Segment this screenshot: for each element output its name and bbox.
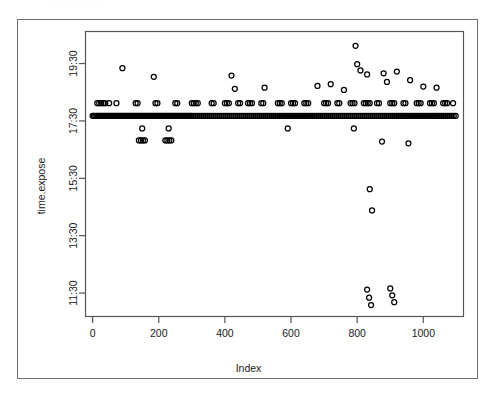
data-point [421, 84, 426, 89]
data-point [394, 69, 399, 74]
data-point [358, 68, 363, 73]
data-point [379, 139, 384, 144]
data-point [140, 126, 145, 131]
data-point [285, 126, 290, 131]
data-point [151, 74, 156, 79]
data-point [365, 287, 370, 292]
data-point [365, 72, 370, 77]
data-point [232, 86, 237, 91]
plot-box [86, 32, 464, 317]
plot-border [86, 32, 464, 317]
x-tick-label: 800 [348, 327, 366, 339]
y-axis-title: time.expose [35, 141, 47, 231]
data-point [392, 300, 397, 305]
data-point [369, 303, 374, 308]
data-point [328, 82, 333, 87]
data-points [90, 43, 458, 307]
data-point [353, 43, 358, 48]
data-point [229, 73, 234, 78]
scatter-plot: 11:3013:3015:3017:3019:30 02004006008001… [0, 0, 497, 399]
data-point [341, 87, 346, 92]
chart-canvas: 11:3013:3015:3017:3019:30 02004006008001… [0, 0, 497, 399]
data-point [434, 85, 439, 90]
x-tick-label: 600 [282, 327, 300, 339]
data-point [388, 286, 393, 291]
data-point [166, 126, 171, 131]
x-tick-label: 0 [90, 327, 96, 339]
x-tick-label: 1000 [412, 327, 436, 339]
data-point [451, 101, 456, 106]
data-point [370, 208, 375, 213]
y-tick-label: 11:30 [67, 280, 79, 306]
data-point [384, 79, 389, 84]
data-point [406, 141, 411, 146]
y-axis: 11:3013:3015:3017:3019:30 [67, 50, 86, 306]
x-axis-title: Index [0, 362, 497, 374]
y-tick-label: 17:30 [67, 108, 79, 134]
y-tick-label: 15:30 [67, 165, 79, 191]
data-point [114, 101, 119, 106]
data-point [315, 83, 320, 88]
x-tick-label: 200 [150, 327, 168, 339]
y-tick-label: 19:30 [67, 50, 79, 76]
data-point [367, 187, 372, 192]
y-tick-label: 13:30 [67, 222, 79, 248]
data-point [120, 66, 125, 71]
data-point [390, 293, 395, 298]
data-point [367, 295, 372, 300]
x-axis: 02004006008001000 [90, 316, 435, 339]
x-tick-label: 400 [216, 327, 234, 339]
data-point [351, 126, 356, 131]
data-point [408, 78, 413, 83]
data-point [381, 71, 386, 76]
data-point [355, 62, 360, 67]
data-point [262, 85, 267, 90]
